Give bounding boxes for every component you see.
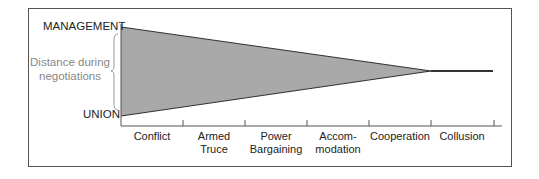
category-conflict: Conflict bbox=[121, 130, 183, 143]
management-label: MANAGEMENT bbox=[43, 20, 125, 32]
category-label: Truce bbox=[183, 143, 245, 156]
category-collusion: Collusion bbox=[431, 130, 493, 143]
x-ticks bbox=[183, 120, 494, 126]
distance-label: Distance during negotiations bbox=[30, 55, 110, 83]
category-label: Collusion bbox=[431, 130, 493, 143]
category-label: Cooperation bbox=[369, 130, 431, 143]
category-label: Conflict bbox=[121, 130, 183, 143]
distance-label-line1: Distance during bbox=[30, 55, 110, 69]
distance-label-line2: negotiations bbox=[30, 69, 110, 83]
category-label: Power bbox=[245, 130, 307, 143]
category-label: Accom- bbox=[307, 130, 369, 143]
bracket-icon bbox=[111, 34, 118, 110]
union-label: UNION bbox=[83, 108, 120, 120]
distance-wedge bbox=[121, 27, 431, 116]
category-cooperation: Cooperation bbox=[369, 130, 431, 143]
category-armed-truce: Armed Truce bbox=[183, 130, 245, 156]
category-power-bargaining: Power Bargaining bbox=[245, 130, 307, 156]
category-accommodation: Accom- modation bbox=[307, 130, 369, 156]
category-label: modation bbox=[307, 143, 369, 156]
category-label: Bargaining bbox=[245, 143, 307, 156]
category-label: Armed bbox=[183, 130, 245, 143]
